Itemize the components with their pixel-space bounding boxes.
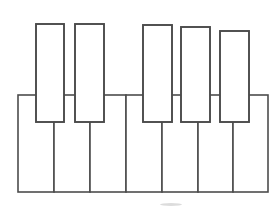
black-key-3[interactable] [143,25,172,122]
bottom-smudge-artifact [160,203,182,206]
black-key-4[interactable] [181,27,210,122]
black-key-5[interactable] [220,31,249,122]
black-key-2[interactable] [75,24,104,122]
piano-keyboard-diagram [0,0,274,214]
keyboard-svg-canvas [0,0,274,214]
black-keys-group-of-three [143,25,249,122]
black-key-1[interactable] [36,24,64,122]
